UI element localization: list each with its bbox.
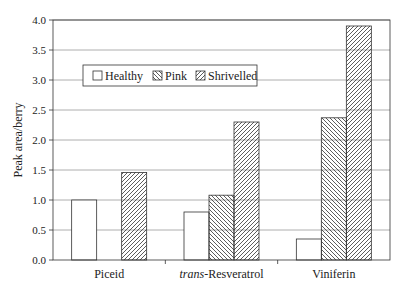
y-axis-label: Peak area/berry: [11, 103, 25, 178]
bar-healthy: [184, 212, 209, 260]
x-tick-label: trans-Resveratrol: [180, 267, 265, 281]
legend-label: Pink: [165, 69, 187, 83]
bar-pink: [321, 118, 346, 260]
legend: HealthyPinkShrivelled: [83, 65, 257, 86]
y-tick-label: 2.5: [32, 104, 46, 116]
bar-healthy: [72, 200, 97, 260]
bar-shrivelled: [234, 122, 259, 260]
bars: [72, 26, 372, 260]
y-tick-label: 2.0: [32, 134, 46, 146]
y-tick-labels: 0.00.51.01.52.02.53.03.54.0: [32, 14, 46, 266]
x-tick-label: Viniferin: [312, 267, 355, 281]
bar-shrivelled: [346, 26, 371, 260]
y-tick-label: 1.5: [32, 164, 46, 176]
y-tick-label: 1.0: [32, 194, 46, 206]
y-tick-label: 3.0: [32, 74, 46, 86]
y-tick-label: 4.0: [32, 14, 46, 26]
x-tick-labels: Piceidtrans-ResveratrolViniferin: [94, 267, 355, 281]
bar-chart: 0.00.51.01.52.02.53.03.54.0 Piceidtrans-…: [0, 0, 402, 293]
legend-swatch-shrivelled: [196, 71, 205, 80]
y-tick-label: 0.5: [32, 224, 46, 236]
bar-healthy: [296, 239, 321, 260]
y-tick-label: 3.5: [32, 44, 46, 56]
legend-swatch-pink: [153, 71, 162, 80]
legend-swatch-healthy: [93, 71, 102, 80]
x-tick-label: Piceid: [94, 267, 124, 281]
bar-shrivelled: [122, 172, 147, 260]
legend-label: Shrivelled: [208, 69, 257, 83]
y-tick-label: 0.0: [32, 254, 46, 266]
legend-label: Healthy: [105, 69, 143, 83]
bar-pink: [209, 195, 234, 260]
